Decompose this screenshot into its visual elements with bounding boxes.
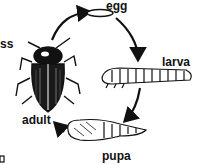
arrow-adult-to-egg [52,12,88,40]
label-cut-left: ss [0,38,13,50]
arrow-egg-to-larva [116,18,138,58]
larva-icon [102,68,191,88]
life-cycle-diagram [0,0,200,165]
pupa-icon [68,120,146,141]
beetle-adult-icon [16,38,80,112]
label-larva: larva [162,56,190,68]
cut-off-glyph [0,156,4,162]
arrow-larva-to-pupa [126,88,140,120]
label-pupa: pupa [102,150,131,162]
arrow-pupa-to-adult [56,124,64,132]
label-egg: egg [106,0,127,12]
label-adult: adult [22,114,51,126]
